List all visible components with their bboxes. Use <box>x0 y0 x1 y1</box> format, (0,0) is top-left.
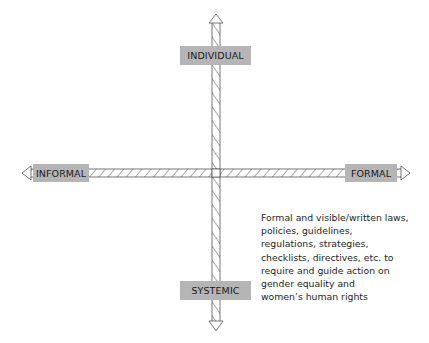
label-formal: FORMAL <box>345 164 397 182</box>
up-arrowhead-icon <box>209 14 223 23</box>
right-arrowhead-icon <box>401 166 410 180</box>
formal-description-text: Formal and visible/written laws, policie… <box>261 211 429 303</box>
left-arrowhead-icon <box>22 166 31 180</box>
label-systemic: SYSTEMIC <box>180 281 251 300</box>
label-individual: INDIVIDUAL <box>180 46 251 65</box>
label-informal: INFORMAL <box>33 164 89 182</box>
down-arrowhead-icon <box>209 321 223 331</box>
axis-intersection <box>212 169 220 177</box>
